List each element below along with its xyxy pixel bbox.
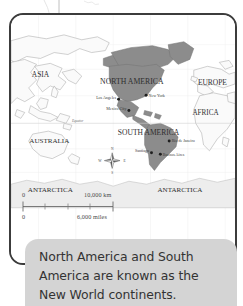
scale-ruler-graphic <box>22 201 114 212</box>
city-label-los-angeles: Los Angeles <box>96 95 116 100</box>
city-dot-mexico-city <box>127 109 130 112</box>
city-label-mexico-city: Mexico City <box>106 106 126 111</box>
city-dot-los-angeles <box>117 98 120 101</box>
scale-miles-max-label: 6,000 miles <box>77 213 107 220</box>
caption-callout: North America and South America are know… <box>25 239 237 306</box>
continent-label-europe-2: EUROPE <box>198 78 227 87</box>
city-dot-new-york <box>145 94 148 97</box>
city-label-rio-de-janeiro: Rio de Janeiro <box>172 138 195 143</box>
map-frame: Equator N S E W Los AngelesNew YorkMexic… <box>9 13 237 265</box>
city-dot-buenos-aires <box>159 153 162 156</box>
caption-text: North America and South America are know… <box>39 248 223 305</box>
scale-km-zero-label: 0 <box>22 191 25 198</box>
scale-km-max-label: 10,000 km <box>84 191 111 198</box>
continent-label-asia-0: ASIA <box>32 70 50 79</box>
compass-east-label: E <box>123 159 125 163</box>
city-dot-rio-de-janeiro <box>168 139 171 142</box>
city-dot-santiago <box>150 151 153 154</box>
continent-label-australia-5: AUSTRALIA <box>29 137 70 145</box>
city-label-santiago: Santiago <box>135 148 149 153</box>
scale-miles-zero-label: 0 <box>22 213 25 220</box>
scale-bar: 0 10,000 km 0 6,000 miles <box>22 191 162 225</box>
compass-south-label: S <box>111 171 113 175</box>
city-label-new-york: New York <box>149 93 166 98</box>
equator-label: Equator <box>71 119 84 123</box>
continent-label-north-america-1: NORTH AMERICA <box>100 77 164 86</box>
city-label-buenos-aires: Buenos Aires <box>163 152 185 157</box>
continent-label-africa-3: AFRICA <box>192 109 219 117</box>
world-map-graphic: Equator N S E W Los AngelesNew YorkMexic… <box>11 15 235 263</box>
continent-label-antarctica-7: ANTARCTICA <box>158 186 204 194</box>
continent-label-south-america-4: SOUTH AMERICA <box>118 128 180 137</box>
